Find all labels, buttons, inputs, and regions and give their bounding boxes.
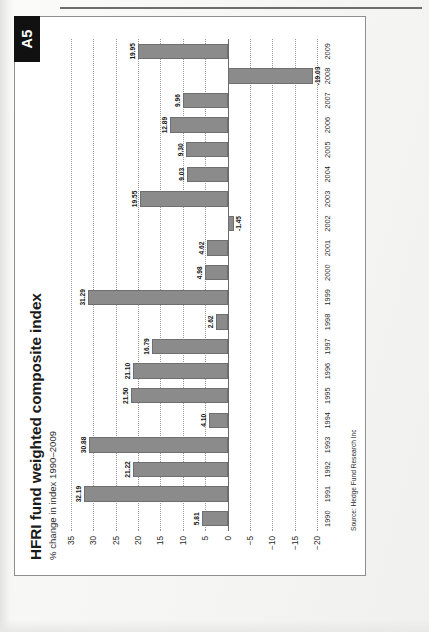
bar-2001 [207,240,228,255]
bar-1991 [84,486,228,501]
y-axis-tick-label: −20 [313,536,322,550]
page-header-rule [60,7,422,9]
y-axis-tick-label: 0 [223,536,232,541]
bar-value-label-1994: 4.10 [200,414,207,427]
bar-value-label-2002: -1.45 [235,216,242,231]
x-axis-tick-label-1996: 1996 [323,363,332,379]
bar-value-label-2008: -19.03 [314,67,321,86]
y-axis-tick-label: 35 [67,536,76,545]
bar-value-label-2006: 12.89 [161,117,168,134]
y-axis-tick-label: −5 [245,536,254,545]
y-axis-tick-label: −15 [290,536,299,550]
gridline [272,39,273,531]
bar-2003 [140,191,227,206]
x-axis-tick-label-2001: 2001 [323,240,332,256]
bar-value-label-1991: 32.19 [75,486,82,503]
bar-1998 [216,314,228,329]
figure-badge: A5 [14,16,40,62]
y-axis-tick-label: 10 [178,536,187,545]
bar-1997 [152,339,227,354]
y-axis-tick-label: 15 [156,536,165,545]
bar-value-label-2000: 4.98 [196,266,203,279]
gridline [138,39,139,531]
bar-1990 [202,511,228,526]
y-axis-tick-label: 30 [89,536,98,545]
plot-area: 35302520151050−5−10−15−205.81199032.1919… [71,39,317,531]
x-axis-tick-label-1991: 1991 [323,486,332,502]
rotated-figure-wrapper: A5 HFRI fund weighted composite index % … [14,16,366,576]
source-note: Source: Hedge Fund Research Inc [350,429,357,531]
gridline [205,39,206,531]
bar-value-label-2004: 9.03 [178,168,185,181]
page-left-edge-shadow [0,0,14,632]
bar-value-label-1996: 21.10 [124,363,131,380]
bar-value-label-2003: 19.55 [131,191,138,208]
chart-figure: A5 HFRI fund weighted composite index % … [14,16,366,576]
gridline [183,39,184,531]
bar-2009 [138,44,227,59]
chart-subtitle: % change in index 1990–2009 [47,431,58,560]
bar-2005 [186,142,228,157]
bar-value-label-2001: 4.62 [198,242,205,255]
gridline [250,39,251,531]
bar-value-label-1993: 30.88 [80,437,87,454]
x-axis-tick-label-1990: 1990 [323,510,332,526]
gridline [71,39,72,531]
bar-2004 [187,167,227,182]
bar-value-label-2005: 9.30 [177,143,184,156]
x-axis-tick-label-2005: 2005 [323,141,332,157]
bar-1999 [88,290,228,305]
gridline [317,39,318,531]
x-axis-tick-label-1998: 1998 [323,314,332,330]
bar-1992 [133,462,228,477]
x-axis-tick-label-1999: 1999 [323,289,332,305]
x-axis-tick-label-1997: 1997 [323,338,332,354]
bar-value-label-1997: 16.79 [143,338,150,355]
y-axis-tick-label: 20 [134,536,143,545]
x-axis-tick-label-1993: 1993 [323,437,332,453]
bar-value-label-1990: 5.81 [193,512,200,525]
bar-1996 [133,363,227,378]
x-axis-tick-label-1994: 1994 [323,412,332,428]
y-axis-tick-label: 25 [111,536,120,545]
gridline [160,39,161,531]
bar-value-label-1999: 31.29 [79,289,86,306]
gridline [116,39,117,531]
y-axis-tick-label: −10 [268,536,277,550]
x-axis-tick-label-2000: 2000 [323,264,332,280]
bar-2008 [228,68,313,83]
bar-2007 [183,93,228,108]
x-axis-tick-label-2006: 2006 [323,117,332,133]
x-axis-tick-label-1992: 1992 [323,461,332,477]
gridline [93,39,94,531]
gridline [295,39,296,531]
zero-axis-line [228,39,229,531]
x-axis-tick-label-2003: 2003 [323,191,332,207]
x-axis-tick-label-1995: 1995 [323,387,332,403]
page-bottom-edge-shadow [0,620,429,632]
bar-2006 [170,117,228,132]
bar-2002 [228,216,234,231]
page-title: HFRI fund weighted composite index [27,293,45,560]
y-axis-tick-label: 5 [201,536,210,541]
x-axis-tick-label-2007: 2007 [323,92,332,108]
x-axis-tick-label-2002: 2002 [323,215,332,231]
x-axis-tick-label-2004: 2004 [323,166,332,182]
bar-1993 [89,437,227,452]
bar-value-label-1995: 21.50 [122,387,129,404]
bar-1994 [209,413,227,428]
bar-value-label-1998: 2.62 [207,315,214,328]
bar-1995 [131,388,227,403]
x-axis-tick-label-2008: 2008 [323,68,332,84]
bar-value-label-2009: 19.95 [129,43,136,60]
bar-value-label-2007: 9.96 [174,94,181,107]
bar-2000 [205,265,227,280]
x-axis-tick-label-2009: 2009 [323,43,332,59]
bar-value-label-1992: 21.22 [124,461,131,478]
